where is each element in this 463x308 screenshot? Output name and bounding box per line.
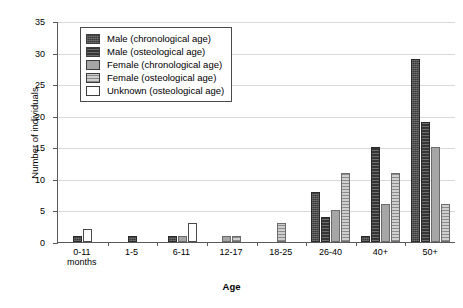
legend-label: Unknown (osteological age) <box>107 86 224 96</box>
bar <box>411 59 420 242</box>
x-axis-tick-label: 1-5 <box>107 247 157 273</box>
legend-label: Male (osteological age) <box>107 47 205 57</box>
y-axis-tick-label: 10 <box>35 175 45 184</box>
legend-item: Unknown (osteological age) <box>86 84 224 97</box>
bar <box>441 204 450 242</box>
y-axis-tick <box>53 243 58 244</box>
bar <box>83 229 92 242</box>
bar <box>421 122 430 242</box>
x-axis-tick-labels: 0-11months1-56-1112-1718-2526-4040+50+ <box>57 247 455 273</box>
chart-figure: Number of individuals 05101520253035 Mal… <box>0 0 463 308</box>
legend-item: Female (osteological age) <box>86 71 224 84</box>
y-axis-tick-label: 0 <box>40 239 45 248</box>
legend-label: Female (osteological age) <box>107 73 216 83</box>
x-axis-tick-label: 6-11 <box>157 247 207 273</box>
legend-swatch <box>86 86 100 96</box>
x-axis-title: Age <box>0 281 463 292</box>
y-axis-tick-label: 30 <box>35 49 45 58</box>
bar <box>381 204 390 242</box>
bar <box>168 236 177 242</box>
legend-swatch <box>86 47 100 57</box>
bar <box>431 147 440 242</box>
bar <box>222 236 231 242</box>
y-axis-tick-label: 5 <box>40 207 45 216</box>
legend-item: Male (osteological age) <box>86 45 224 58</box>
legend-item: Male (chronological age) <box>86 32 224 45</box>
bar <box>341 173 350 242</box>
y-axis-tick-label: 25 <box>35 81 45 90</box>
bar-group <box>257 22 307 242</box>
plot-area: Male (chronological age)Male (osteologic… <box>57 22 455 243</box>
bar <box>361 236 370 242</box>
bar-group <box>356 22 406 242</box>
legend-item: Female (chronological age) <box>86 58 224 71</box>
legend-swatch <box>86 34 100 44</box>
legend: Male (chronological age)Male (osteologic… <box>80 27 232 102</box>
bar <box>73 236 82 242</box>
bar <box>232 236 241 242</box>
x-axis-tick-label: 26-40 <box>306 247 356 273</box>
x-axis-tick-label: 0-11months <box>57 247 107 273</box>
bar-group <box>405 22 455 242</box>
bar-group <box>306 22 356 242</box>
bar <box>371 147 380 242</box>
bar <box>391 173 400 242</box>
bar <box>178 236 187 242</box>
x-axis-tick-label: 18-25 <box>256 247 306 273</box>
y-axis-tick-labels: 05101520253035 <box>0 22 53 243</box>
bar <box>331 210 340 242</box>
y-axis-tick-label: 20 <box>35 112 45 121</box>
legend-label: Male (chronological age) <box>107 34 211 44</box>
x-axis-tick-label: 40+ <box>356 247 406 273</box>
x-axis-tick-label: 12-17 <box>206 247 256 273</box>
legend-swatch <box>86 73 100 83</box>
y-axis-tick-label: 15 <box>35 144 45 153</box>
x-axis-tick-label: 50+ <box>405 247 455 273</box>
bar <box>188 223 197 242</box>
bar <box>311 192 320 243</box>
legend-label: Female (chronological age) <box>107 60 222 70</box>
bar <box>128 236 137 242</box>
legend-swatch <box>86 60 100 70</box>
y-axis-tick-label: 35 <box>35 18 45 27</box>
bar <box>321 217 330 242</box>
bar <box>277 223 286 242</box>
figure-caption <box>0 300 463 308</box>
